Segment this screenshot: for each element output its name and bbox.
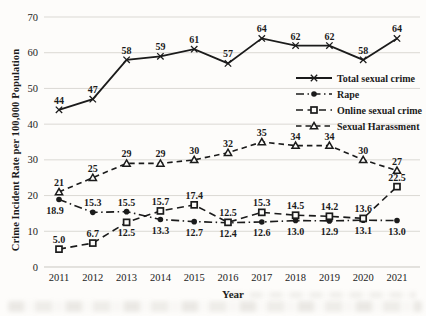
circle-filled-marker: [158, 217, 164, 223]
data-label: 25: [88, 163, 98, 174]
data-label: 59: [155, 41, 165, 52]
data-label: 30: [358, 145, 368, 156]
y-tick-label: 70: [28, 12, 39, 23]
x-tick-label: 2017: [251, 272, 272, 283]
y-axis-title: Crime Incident Rate per 100,000 Populati…: [10, 25, 26, 275]
data-label: 62: [291, 31, 301, 42]
x-tick-label: 2011: [49, 272, 70, 283]
square-open-marker: [56, 246, 62, 252]
data-label: 15.5: [118, 197, 136, 208]
y-tick-label: 60: [28, 47, 39, 58]
triangle-open-marker: [157, 160, 164, 166]
data-label: 58: [358, 45, 368, 56]
square-open-marker: [360, 215, 366, 221]
x-tick-label: 2013: [116, 272, 137, 283]
square-open-marker: [394, 184, 400, 190]
triangle-open-marker: [89, 174, 96, 180]
y-tick-label: 20: [28, 190, 39, 201]
square-open-marker: [259, 209, 265, 215]
data-label: 27: [392, 156, 402, 167]
triangle-open-marker: [292, 142, 299, 148]
x-tick-label: 2019: [319, 272, 340, 283]
data-label: 15.3: [253, 197, 271, 208]
square-open-marker: [293, 212, 299, 218]
data-label: 64: [392, 23, 402, 34]
data-label: 29: [122, 148, 132, 159]
data-label: 34: [324, 131, 334, 142]
y-tick-label: 0: [33, 262, 38, 273]
data-label: 35: [257, 127, 267, 138]
legend-label: Sexual Harassment: [337, 121, 420, 132]
data-label: 64: [257, 23, 267, 34]
triangle-open-icon: [310, 123, 317, 129]
triangle-open-marker: [393, 167, 400, 173]
triangle-open-marker: [360, 156, 367, 162]
data-label: 13.0: [287, 226, 305, 237]
circle-filled-marker: [191, 219, 197, 225]
data-label: 12.9: [321, 226, 339, 237]
square-open-marker: [90, 240, 96, 246]
data-label: 30: [189, 145, 199, 156]
triangle-open-marker: [123, 160, 130, 166]
data-label: 6.7: [87, 228, 100, 239]
x-tick-label: 2016: [218, 272, 239, 283]
data-label: 13.0: [388, 226, 406, 237]
square-open-marker: [157, 208, 163, 214]
circle-filled-marker: [90, 210, 96, 216]
data-label: 13.3: [152, 225, 170, 236]
data-label: 29: [155, 148, 165, 159]
data-label: 12.5: [219, 207, 237, 218]
data-label: 13.6: [354, 203, 372, 214]
data-label: 14.5: [287, 200, 305, 211]
data-label: 57: [223, 48, 233, 59]
data-label: 13.1: [354, 225, 372, 236]
data-label: 18.9: [46, 205, 64, 216]
square-open-marker: [326, 213, 332, 219]
circle-filled-marker: [394, 218, 400, 224]
x-cross-marker: [394, 35, 400, 41]
data-label: 15.3: [84, 197, 102, 208]
legend-label: Rape: [337, 89, 360, 100]
data-label: 62: [324, 31, 334, 42]
data-label: 5.0: [53, 234, 66, 245]
x-tick-label: 2020: [353, 272, 374, 283]
triangle-open-marker: [326, 142, 333, 148]
data-label: 14.2: [321, 201, 339, 212]
x-tick-label: 2012: [82, 272, 103, 283]
circle-filled-marker: [56, 197, 62, 203]
x-tick-label: 2014: [150, 272, 172, 283]
triangle-open-marker: [55, 189, 62, 195]
scan-bleed-artifact: [230, 292, 416, 298]
triangle-open-marker: [258, 139, 265, 145]
data-label: 44: [54, 95, 64, 106]
square-open-marker: [191, 202, 197, 208]
circle-filled-icon: [311, 91, 317, 97]
data-label: 12.7: [185, 227, 203, 238]
data-label: 32: [223, 138, 233, 149]
legend-label: Total sexual crime: [337, 73, 416, 84]
square-open-marker: [225, 219, 231, 225]
y-tick-label: 40: [28, 119, 39, 130]
data-label: 34: [291, 131, 301, 142]
triangle-open-marker: [224, 149, 231, 155]
data-label: 12.6: [253, 227, 271, 238]
circle-filled-marker: [259, 219, 265, 225]
data-label: 12.5: [118, 227, 136, 238]
y-tick-label: 30: [28, 154, 39, 165]
x-tick-label: 2021: [387, 272, 408, 283]
triangle-open-marker: [191, 156, 198, 162]
data-label: 15.7: [152, 196, 170, 207]
y-tick-label: 10: [28, 226, 39, 237]
y-tick-label: 50: [28, 83, 39, 94]
square-open-icon: [311, 107, 317, 113]
data-label: 21: [54, 177, 64, 188]
data-label: 58: [122, 45, 132, 56]
data-label: 61: [189, 34, 199, 45]
scan-bleed-artifact: [8, 301, 422, 312]
crime-trend-figure: 0102030405060702011201220132014201520162…: [0, 0, 426, 316]
legend-label: Online sexual crime: [337, 105, 423, 116]
data-label: 12.4: [219, 228, 237, 239]
data-label: 47: [88, 84, 98, 95]
circle-filled-marker: [124, 209, 130, 215]
square-open-marker: [124, 219, 130, 225]
